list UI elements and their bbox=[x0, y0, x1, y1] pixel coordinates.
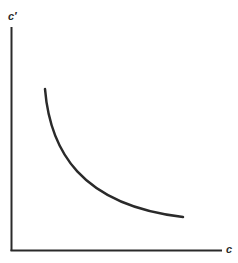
x-axis-label: c bbox=[226, 243, 232, 255]
convex-curve bbox=[45, 89, 183, 217]
y-axis-label: c′ bbox=[8, 10, 17, 22]
diagram-canvas bbox=[0, 0, 238, 263]
